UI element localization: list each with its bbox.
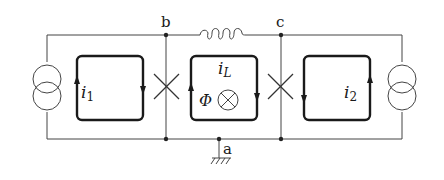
node-b-bottom-dot [164,137,168,141]
circuit-diagram: b c a i1 iL i2 Φ [0,0,444,180]
current-iL-label: iL [218,58,231,80]
arrow-up-icon [367,74,373,83]
arrow-up-icon [74,75,80,84]
arrow-down-icon [140,86,146,95]
node-a-label: a [223,140,232,158]
node-c-label: c [276,13,284,31]
arrow-down-icon [254,93,260,102]
top-wire-right [246,35,402,62]
loop-left [77,56,143,120]
node-c-bottom-dot [279,137,283,141]
current-i2-label: i2 [344,82,357,104]
top-wire-left [47,35,200,62]
node-c-dot [279,33,283,37]
current-source-right-icon [388,65,416,110]
node-b-label: b [161,13,171,31]
current-i1-label: i1 [81,82,94,104]
node-a-dot [217,137,221,141]
arrow-up-icon [188,82,194,91]
bottom-wire [47,112,402,139]
ground-icon [211,158,231,164]
flux-into-page-icon [218,90,238,110]
node-b-dot [164,33,168,37]
node-dots [164,33,283,141]
current-source-left-icon [33,65,61,110]
arrow-down-icon [301,95,307,104]
flux-phi-label: Φ [199,91,212,110]
loop-right [304,56,370,120]
inductor-icon [200,29,246,40]
